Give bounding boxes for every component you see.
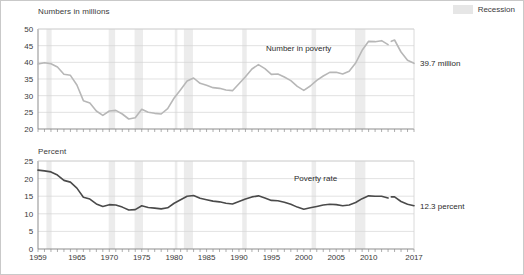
recession-band	[242, 29, 247, 129]
top-chart-svg	[1, 1, 524, 275]
data-line	[391, 197, 414, 206]
y-tick-label: 15	[17, 192, 33, 201]
recession-band	[135, 161, 143, 249]
recession-band	[175, 161, 178, 249]
x-tick-label: 1995	[263, 253, 280, 262]
x-tick-label: 2010	[360, 253, 377, 262]
recession-band	[184, 29, 193, 129]
x-tick-label: 1959	[29, 253, 46, 262]
y-tick-label: 10	[17, 209, 33, 218]
x-tick-label: 1980	[165, 253, 182, 262]
x-tick-label: 2000	[295, 253, 312, 262]
top-axis-title: Numbers in millions	[38, 7, 110, 16]
poverty-figure: Recession Numbers in millions 2025303540…	[0, 0, 524, 275]
y-tick-label: 45	[17, 41, 33, 50]
data-line	[38, 41, 388, 119]
recession-band	[109, 161, 115, 249]
series-label-number-in-poverty: Number in poverty	[266, 44, 331, 53]
y-tick-label: 0	[17, 245, 33, 254]
recession-band	[109, 29, 115, 129]
end-note-millions: 39.7 million	[420, 59, 460, 68]
y-tick-label: 20	[17, 125, 33, 134]
y-tick-label: 50	[17, 25, 33, 34]
x-tick-label: 1990	[230, 253, 247, 262]
y-tick-label: 25	[17, 157, 33, 166]
bottom-axis-title: Percent	[38, 147, 66, 156]
y-tick-label: 35	[17, 75, 33, 84]
recession-band	[184, 161, 193, 249]
end-note-percent: 12.3 percent	[420, 201, 464, 210]
bottom-chart-svg	[1, 1, 524, 275]
x-tick-label: 1985	[198, 253, 215, 262]
recession-swatch	[453, 5, 473, 14]
recession-band	[312, 29, 317, 129]
recession-band	[46, 161, 51, 249]
panel-number-in-poverty: Numbers in millions 20253035404550Number…	[1, 1, 524, 275]
recession-band	[175, 29, 178, 129]
panel-poverty-rate: Percent 05101520251959196519701975198019…	[1, 1, 524, 275]
x-tick-label: 2005	[328, 253, 345, 262]
recession-band	[355, 161, 365, 249]
y-tick-label: 30	[17, 91, 33, 100]
y-tick-label: 40	[17, 58, 33, 67]
data-line	[391, 40, 414, 63]
y-tick-label: 25	[17, 108, 33, 117]
y-tick-label: 20	[17, 174, 33, 183]
y-tick-label: 5	[17, 227, 33, 236]
x-tick-label: 1975	[133, 253, 150, 262]
series-label-poverty-rate: Poverty rate	[294, 174, 337, 183]
x-tick-label: 2017	[405, 253, 422, 262]
x-tick-label: 1970	[101, 253, 118, 262]
recession-band	[135, 29, 143, 129]
x-tick-label: 1965	[68, 253, 85, 262]
recession-band	[355, 29, 365, 129]
recession-band	[312, 161, 317, 249]
recession-legend-label: Recession	[478, 5, 515, 14]
recession-band	[242, 161, 247, 249]
recession-legend: Recession	[453, 5, 515, 14]
recession-band	[46, 29, 51, 129]
data-line	[38, 170, 388, 210]
